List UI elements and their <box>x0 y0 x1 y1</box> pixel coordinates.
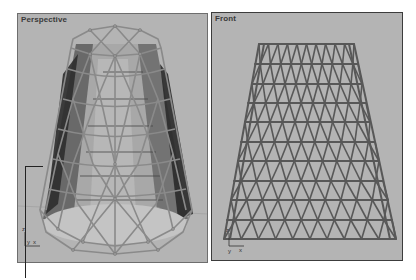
callout-line-horizontal <box>25 166 43 167</box>
svg-text:y: y <box>27 239 30 245</box>
svg-text:x: x <box>239 247 242 253</box>
viewport-label-front[interactable]: Front <box>215 14 236 23</box>
perspective-scene: z y x <box>18 14 208 263</box>
viewport-label-perspective[interactable]: Perspective <box>21 15 67 24</box>
axis-tripod-icon: z y x <box>226 227 244 254</box>
callout-line-vertical <box>25 166 26 278</box>
front-scene: z y x <box>212 13 403 261</box>
viewport-front[interactable]: z y x Front <box>211 12 403 261</box>
svg-text:x: x <box>33 239 36 245</box>
viewport-perspective[interactable]: z y x Perspective <box>17 13 208 263</box>
svg-text:z: z <box>226 227 229 233</box>
svg-text:y: y <box>228 248 231 254</box>
